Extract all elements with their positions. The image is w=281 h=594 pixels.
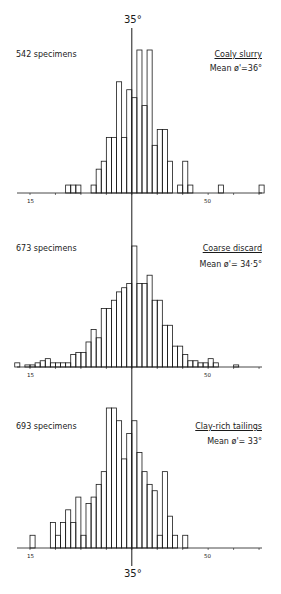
histogram-bin: [50, 523, 55, 548]
histogram-bin: [167, 161, 172, 193]
histogram-bin: [45, 359, 50, 367]
histogram-bin: [137, 284, 142, 367]
histogram-bin: [137, 453, 142, 548]
histogram-bin: [183, 161, 188, 193]
histogram-bin: [173, 535, 178, 548]
histogram-bin: [101, 472, 106, 548]
histogram-bin: [178, 346, 183, 367]
histogram-bin: [127, 284, 132, 367]
histogram-bin: [193, 361, 198, 367]
histogram-bin: [101, 161, 106, 193]
histogram-bin: [50, 363, 55, 367]
tick-label-50: 50: [204, 198, 211, 204]
histogram-bin: [167, 516, 172, 548]
histogram-bin: [106, 309, 111, 367]
histogram-bin: [106, 408, 111, 548]
histogram-bin: [15, 363, 20, 367]
histogram-bin: [61, 523, 66, 548]
histogram-bin: [147, 275, 152, 367]
histogram-bin: [91, 185, 96, 193]
histogram-bin: [71, 523, 76, 548]
histogram-bin: [96, 484, 101, 548]
histogram-bin: [132, 98, 137, 193]
histogram-bin: [152, 491, 157, 548]
histogram-bin: [142, 284, 147, 367]
histogram-bin: [40, 361, 45, 367]
tick-label-50: 50: [204, 553, 211, 559]
reference-angle-label-bottom: 35°: [124, 568, 142, 579]
histogram-bin: [122, 137, 127, 193]
histogram-bin: [183, 354, 188, 367]
histogram-bin: [106, 137, 111, 193]
histogram-bin: [198, 363, 203, 367]
histogram-bin: [147, 50, 152, 193]
histogram-bin: [101, 309, 106, 367]
histogram-bin: [81, 352, 86, 367]
reference-angle-label-top: 35°: [124, 14, 142, 25]
histogram-bin: [132, 421, 137, 548]
histogram-bin: [122, 288, 127, 367]
histogram-bin: [30, 365, 35, 367]
histogram-bin: [259, 185, 264, 193]
histogram-bin: [152, 300, 157, 367]
histogram-bin: [173, 346, 178, 367]
histogram-bin: [183, 535, 188, 548]
specimen-count-label: 673 specimens: [16, 244, 77, 253]
histogram-bin: [188, 185, 193, 193]
tick-label-15: 15: [27, 372, 34, 378]
specimen-count-label: 542 specimens: [16, 50, 77, 59]
histogram-bin: [162, 325, 167, 367]
histogram-bin: [157, 300, 162, 367]
histogram-bin: [96, 338, 101, 367]
histogram-bin: [71, 185, 76, 193]
histogram-bin: [127, 90, 132, 193]
histogram-bin: [76, 185, 81, 193]
histogram-bin: [127, 433, 132, 548]
tick-label-50: 50: [204, 372, 211, 378]
tick-label-15: 15: [27, 553, 34, 559]
histogram-plot-area: [0, 0, 281, 594]
histogram-bin: [117, 292, 122, 367]
specimen-count-label: 693 specimens: [16, 422, 77, 431]
histogram-bin: [66, 510, 71, 548]
histogram-bin: [117, 421, 122, 548]
histogram-bin: [76, 497, 81, 548]
histogram-bin: [122, 459, 127, 548]
histogram-bin: [55, 535, 60, 548]
mean-label: Mean ø'=36°: [210, 64, 262, 73]
mean-label: Mean ø'= 33°: [207, 437, 262, 446]
histogram-bin: [25, 365, 30, 367]
histogram-bin: [167, 325, 172, 367]
mean-label: Mean ø'= 34·5°: [200, 260, 263, 269]
histogram-bin: [86, 342, 91, 367]
histogram-bin: [162, 129, 167, 193]
histogram-bin: [35, 363, 40, 367]
tick-label-15: 15: [27, 198, 34, 204]
histogram-bin: [234, 365, 239, 367]
histogram-bin: [117, 82, 122, 193]
histogram-bin: [162, 472, 167, 548]
histogram-bin: [91, 329, 96, 367]
histogram-bin: [142, 106, 147, 193]
histogram-bin: [142, 472, 147, 548]
histogram-figure: 35° 542 specimens Coaly slurry Mean ø'=3…: [0, 0, 281, 594]
histogram-bin: [111, 300, 116, 367]
histogram-bin: [208, 359, 213, 367]
panel-title: Coaly slurry: [214, 50, 262, 59]
histogram-bin: [147, 484, 152, 548]
histogram-bin: [30, 535, 35, 548]
histogram-bin: [137, 50, 142, 193]
histogram-bin: [203, 363, 208, 367]
histogram-bin: [213, 363, 218, 367]
histogram-bin: [157, 129, 162, 193]
histogram-bin: [111, 137, 116, 193]
histogram-bin: [91, 497, 96, 548]
histogram-bin: [157, 535, 162, 548]
histogram-bin: [55, 363, 60, 367]
histogram-bin: [188, 361, 193, 367]
histogram-bin: [81, 535, 86, 548]
histogram-bin: [132, 246, 137, 367]
histogram-bin: [76, 352, 81, 367]
histogram-bin: [66, 185, 71, 193]
panel-title: Coarse discard: [203, 244, 262, 253]
